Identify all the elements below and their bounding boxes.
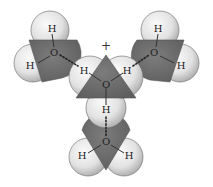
hydrogen-label: H	[78, 150, 87, 161]
hydrogen-label: H	[125, 150, 134, 161]
hydrogen-label: H	[177, 60, 186, 71]
hydrogen-label: H	[102, 104, 111, 115]
positive-charge-label: +	[101, 39, 111, 53]
oxygen-label: O	[102, 136, 110, 147]
oxygen-label: O	[50, 47, 58, 58]
hydrogen-label: H	[26, 60, 35, 71]
hydrogen-label: H	[48, 23, 57, 34]
hydronium-water-diagram: H H O H H O H H O H H H O +	[0, 0, 213, 187]
hydrogen-label: H	[123, 65, 132, 76]
oxygen-label: O	[102, 79, 110, 90]
hydrogen-label: H	[154, 23, 163, 34]
hydrogen-label: H	[80, 65, 89, 76]
oxygen-label: O	[150, 47, 158, 58]
